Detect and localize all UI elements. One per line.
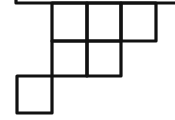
cell-r2c2 <box>87 41 121 76</box>
cell-r1c2 <box>87 3 121 41</box>
cell-r2c1 <box>52 41 87 76</box>
cell-r3c1 <box>17 76 52 113</box>
cell-r1c3 <box>121 3 156 41</box>
staircase-diagram <box>0 0 175 120</box>
cell-r1c1 <box>52 3 87 41</box>
